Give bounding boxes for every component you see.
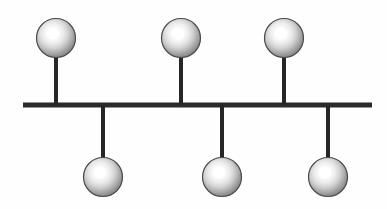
node-top-3-highlight bbox=[274, 28, 287, 40]
node-top-1[interactable]: Top node 1 bbox=[37, 19, 76, 58]
node-bottom-3[interactable]: Bottom node 3 bbox=[309, 158, 348, 197]
diagram-canvas: Top node 1Top node 2Top node 3Bottom nod… bbox=[0, 0, 387, 209]
stem-node-bottom-1 bbox=[101, 105, 105, 160]
node-top-1-highlight bbox=[46, 28, 59, 40]
node-bottom-3-highlight bbox=[318, 167, 331, 179]
node-bottom-1-highlight bbox=[93, 167, 106, 179]
stem-node-top-1 bbox=[54, 57, 58, 105]
node-link-diagram: Top node 1Top node 2Top node 3Bottom nod… bbox=[0, 0, 387, 209]
stem-node-bottom-3 bbox=[326, 105, 330, 160]
stem-node-bottom-2 bbox=[220, 105, 224, 160]
node-bottom-2-highlight bbox=[212, 167, 225, 179]
node-bottom-1[interactable]: Bottom node 1 bbox=[84, 158, 123, 197]
node-top-2-highlight bbox=[171, 28, 184, 40]
spine-bar bbox=[23, 103, 372, 108]
node-top-2[interactable]: Top node 2 bbox=[162, 19, 201, 58]
node-bottom-2[interactable]: Bottom node 2 bbox=[203, 158, 242, 197]
stem-node-top-3 bbox=[282, 57, 286, 105]
node-top-3[interactable]: Top node 3 bbox=[265, 19, 304, 58]
stem-node-top-2 bbox=[179, 57, 183, 105]
horizontal-spine bbox=[23, 103, 372, 108]
